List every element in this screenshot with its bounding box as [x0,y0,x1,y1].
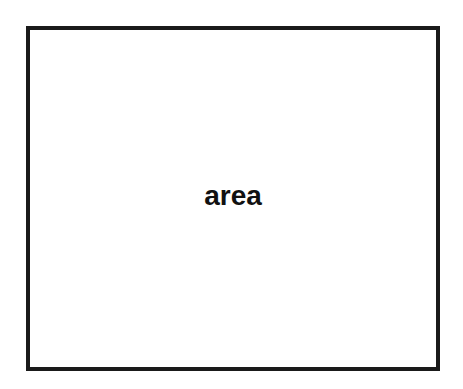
area-rectangle[interactable]: area [26,26,440,371]
area-label: area [204,182,262,210]
diagram-canvas: area [0,0,463,389]
